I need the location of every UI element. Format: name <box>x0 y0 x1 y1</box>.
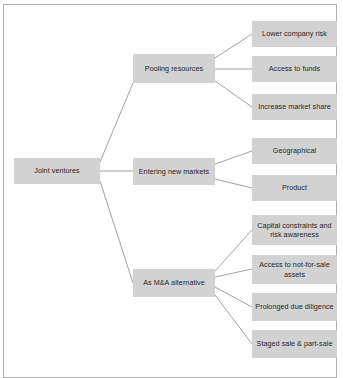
node-joint-ventures[interactable]: Joint ventures <box>14 158 100 184</box>
connector-ma-diligence <box>215 287 252 307</box>
node-product[interactable]: Product <box>252 175 337 201</box>
connector-root-pooling <box>100 83 133 162</box>
node-staged-sale-part-sale[interactable]: Staged sale & part-sale <box>252 330 337 358</box>
node-not-for-sale-assets-label: Access to not-for-sale assets <box>254 260 335 279</box>
connector-markets-geographical <box>215 151 252 164</box>
node-as-ma-alternative[interactable]: As M&A alternative <box>133 269 215 297</box>
node-access-to-funds[interactable]: Access to funds <box>252 56 337 82</box>
connector-root-ma <box>100 181 133 283</box>
connector-pooling-lower-risk <box>215 34 252 58</box>
node-increase-market-share[interactable]: Increase market share <box>252 94 337 120</box>
node-prolonged-due-diligence[interactable]: Prolonged due diligence <box>252 293 337 321</box>
node-not-for-sale-assets[interactable]: Access to not-for-sale assets <box>252 255 337 284</box>
node-prolonged-due-diligence-label: Prolonged due diligence <box>254 302 335 312</box>
node-pooling-resources-label: Pooling resources <box>135 64 213 74</box>
connector-ma-assets <box>215 269 252 277</box>
node-product-label: Product <box>254 183 335 193</box>
node-as-ma-alternative-label: As M&A alternative <box>135 278 213 288</box>
connector-markets-product <box>215 179 252 188</box>
node-access-to-funds-label: Access to funds <box>254 64 335 74</box>
node-entering-new-markets-label: Entering new markets <box>135 167 213 177</box>
node-geographical-label: Geographical <box>254 146 335 156</box>
node-capital-constraints[interactable]: Capital constraints and risk awareness <box>252 215 337 245</box>
connector-ma-staged-sale <box>215 295 252 344</box>
connector-ma-capital <box>215 230 252 271</box>
node-pooling-resources[interactable]: Pooling resources <box>133 54 215 83</box>
node-increase-market-share-label: Increase market share <box>254 102 335 112</box>
connector-pooling-market-share <box>215 81 252 107</box>
node-lower-company-risk[interactable]: Lower company risk <box>252 21 337 47</box>
node-staged-sale-part-sale-label: Staged sale & part-sale <box>254 339 335 349</box>
node-geographical[interactable]: Geographical <box>252 138 337 164</box>
node-joint-ventures-label: Joint ventures <box>16 166 98 176</box>
node-lower-company-risk-label: Lower company risk <box>254 29 335 39</box>
node-capital-constraints-label: Capital constraints and risk awareness <box>254 221 335 240</box>
node-entering-new-markets[interactable]: Entering new markets <box>133 158 215 185</box>
